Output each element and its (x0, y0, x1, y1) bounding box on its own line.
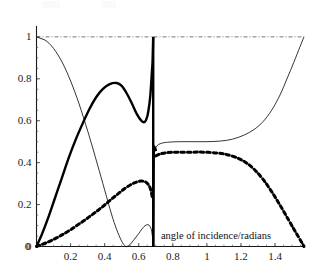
data-series-layer (37, 37, 305, 247)
series-thin-solid-curve (37, 37, 154, 247)
x-tick-label: 0.8 (158, 251, 188, 262)
series-thin-solid-curve-upper-branch (154, 37, 304, 151)
y-tick-label: 1 (26, 31, 32, 42)
y-tick-label: 0.8 (18, 73, 32, 84)
series-thick-dashed-curve (37, 181, 153, 246)
x-tick-label: 0.2 (56, 251, 86, 262)
series-thick-solid-curve (37, 37, 154, 247)
y-tick-label: 0.4 (18, 157, 32, 168)
y-axis-tick-marks (37, 37, 41, 247)
x-tick-label: 0.4 (90, 251, 120, 262)
x-tick-label: 1 (192, 251, 222, 262)
fresnel-reflectance-chart: 00.20.40.60.81 00.20.40.60.811.21.4 angl… (0, 0, 311, 279)
x-tick-label: 0.6 (124, 251, 154, 262)
x-tick-label: 1.2 (226, 251, 256, 262)
x-tick-label: 1.4 (260, 251, 290, 262)
y-tick-label: 0.2 (18, 199, 32, 210)
x-axis-title: angle of incidence/radians (161, 231, 271, 242)
x-tick-label: 0 (13, 241, 43, 252)
y-tick-label: 0.6 (18, 115, 32, 126)
